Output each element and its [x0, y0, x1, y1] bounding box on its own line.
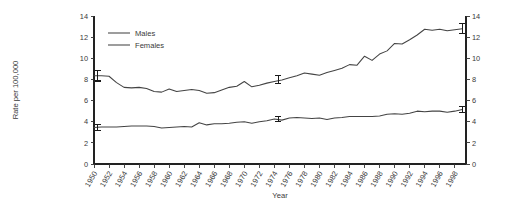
y-tick-label-left: 12 — [80, 33, 88, 42]
y-tick-label-right: 10 — [472, 54, 480, 63]
x-tick-label: 1988 — [369, 170, 385, 189]
legend-entry-males: Males — [108, 29, 155, 38]
x-tick-label: 1956 — [128, 170, 144, 189]
x-tick-label: 1966 — [203, 170, 219, 189]
x-tick-label: 1974 — [263, 170, 279, 189]
chart-container: 0246810121402468101214195019521954195619… — [0, 0, 516, 207]
y-tick-label-right: 0 — [472, 160, 476, 169]
x-tick-label: 1954 — [113, 170, 129, 189]
y-tick-label-left: 2 — [84, 139, 88, 148]
y-tick-label-right: 4 — [472, 117, 476, 126]
x-tick-label: 1964 — [188, 170, 204, 189]
y-tick-label-right: 6 — [472, 96, 476, 105]
x-tick-label: 1950 — [83, 170, 99, 189]
x-tick-label: 1986 — [354, 170, 370, 189]
x-tick-label: 1978 — [293, 170, 309, 189]
y-tick-label-left: 0 — [84, 160, 88, 169]
y-tick-label-right: 12 — [472, 33, 480, 42]
x-tick-label: 1992 — [399, 170, 415, 189]
x-tick-label: 1990 — [384, 170, 400, 189]
x-tick-label: 1972 — [248, 170, 264, 189]
legend-label: Females — [135, 41, 164, 50]
y-axis-title: Rate per 100,000 — [11, 61, 20, 120]
x-tick-label: 1952 — [98, 170, 114, 189]
x-tick-label: 1996 — [429, 170, 445, 189]
x-tick-label: 1960 — [158, 170, 174, 189]
y-tick-label-right: 14 — [472, 12, 480, 21]
x-tick-label: 1958 — [143, 170, 159, 189]
y-tick-label-left: 8 — [84, 75, 88, 84]
x-tick-label: 1998 — [444, 170, 460, 189]
y-tick-label-left: 10 — [80, 54, 88, 63]
x-tick-label: 1984 — [338, 170, 354, 189]
x-tick-label: 1994 — [414, 170, 430, 189]
x-tick-label: 1970 — [233, 170, 249, 189]
x-tick-label: 1982 — [323, 170, 339, 189]
x-axis-title: Year — [272, 191, 288, 200]
x-tick-label: 1976 — [278, 170, 294, 189]
y-tick-label-left: 14 — [80, 12, 88, 21]
y-tick-label-right: 8 — [472, 75, 476, 84]
x-tick-label: 1980 — [308, 170, 324, 189]
axes: 0246810121402468101214195019521954195619… — [80, 12, 480, 189]
error-bar-males — [275, 76, 281, 84]
y-tick-label-right: 2 — [472, 139, 476, 148]
legend-entry-females: Females — [108, 41, 164, 50]
x-tick-label: 1962 — [173, 170, 189, 189]
x-tick-label: 1968 — [218, 170, 234, 189]
legend-label: Males — [135, 29, 155, 38]
chart-legend: MalesFemales — [108, 29, 164, 50]
y-tick-label-left: 6 — [84, 96, 88, 105]
line-chart: 0246810121402468101214195019521954195619… — [0, 0, 516, 207]
y-tick-label-left: 4 — [84, 117, 88, 126]
